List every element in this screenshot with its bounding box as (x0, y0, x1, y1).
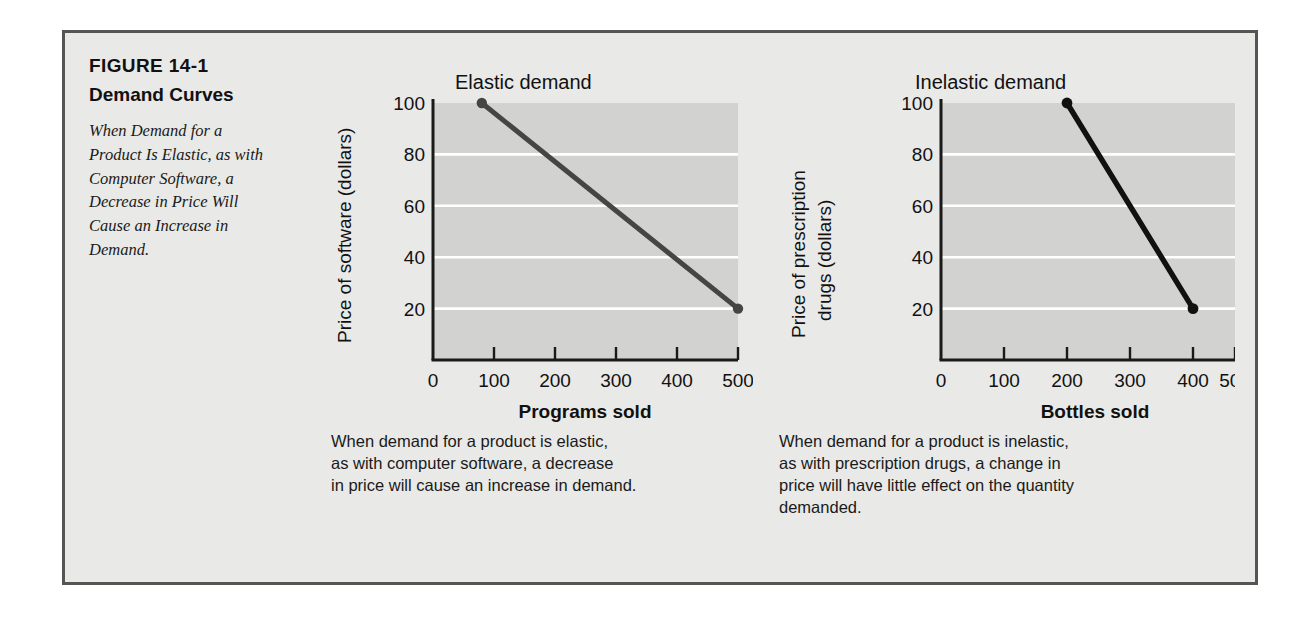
y-tick-80-inelastic: 80 (912, 144, 933, 165)
plot-area-elastic (433, 103, 738, 360)
x-tick-100-inelastic: 100 (988, 370, 1020, 391)
x-axis-title-elastic: Programs sold (518, 401, 651, 422)
chart-title-inelastic: Inelastic demand (915, 71, 1066, 94)
x-tick-0-inelastic: 0 (936, 370, 947, 391)
y-tick-80-elastic: 80 (404, 144, 425, 165)
x-tick-500-inelastic: 500 (1219, 370, 1235, 391)
x-tick-100-elastic: 100 (478, 370, 510, 391)
x-tick-300-inelastic: 300 (1114, 370, 1146, 391)
y-tick-100-elastic: 100 (393, 93, 425, 114)
figure-description: When Demand for a Product Is Elastic, as… (89, 119, 267, 262)
chart-elastic: 100 80 60 40 20 0 100 200 300 400 500 Pr… (313, 93, 753, 433)
chart-title-elastic: Elastic demand (455, 71, 592, 94)
y-tick-100-inelastic: 100 (901, 93, 933, 114)
data-point-inelastic-start (1062, 98, 1073, 109)
figure-caption-column: FIGURE 14-1 Demand Curves When Demand fo… (89, 55, 267, 262)
figure-number: FIGURE 14-1 (89, 55, 267, 77)
x-tick-300-elastic: 300 (600, 370, 632, 391)
y-tick-60-elastic: 60 (404, 196, 425, 217)
y-axis-title-inelastic-line2: drugs (dollars) (814, 200, 835, 321)
data-point-elastic-start (477, 98, 487, 108)
y-axis-title-inelastic-line1: Price of prescription (788, 170, 809, 338)
y-tick-40-inelastic: 40 (912, 247, 933, 268)
figure-title: Demand Curves (89, 84, 267, 106)
x-tick-500-elastic: 500 (722, 370, 753, 391)
y-axis-title-elastic: Price of software (dollars) (334, 128, 355, 343)
y-tick-60-inelastic: 60 (912, 196, 933, 217)
x-tick-200-elastic: 200 (539, 370, 571, 391)
chart-caption-inelastic: When demand for a product is inelastic, … (779, 431, 1219, 519)
data-point-inelastic-end (1188, 303, 1199, 314)
chart-inelastic: 100 80 60 40 20 0 100 200 300 400 500 Pr… (765, 93, 1235, 433)
y-tick-20-elastic: 20 (404, 299, 425, 320)
x-tick-400-elastic: 400 (661, 370, 693, 391)
x-axis-title-inelastic: Bottles sold (1041, 401, 1150, 422)
x-tick-400-inelastic: 400 (1177, 370, 1209, 391)
y-tick-40-elastic: 40 (404, 247, 425, 268)
chart-caption-elastic: When demand for a product is elastic, as… (331, 431, 751, 497)
figure-container: FIGURE 14-1 Demand Curves When Demand fo… (62, 30, 1258, 585)
x-tick-200-inelastic: 200 (1051, 370, 1083, 391)
x-tick-0-elastic: 0 (428, 370, 439, 391)
y-tick-20-inelastic: 20 (912, 299, 933, 320)
data-point-elastic-end (733, 303, 743, 313)
